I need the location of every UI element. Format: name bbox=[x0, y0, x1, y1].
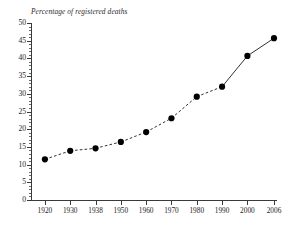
x-tick-label: 1970 bbox=[164, 207, 179, 214]
x-tick bbox=[146, 201, 147, 205]
data-point bbox=[219, 84, 225, 90]
data-series-line bbox=[31, 23, 277, 201]
line-segment bbox=[121, 132, 146, 142]
x-tick-label: 1990 bbox=[215, 207, 230, 214]
x-tick-label: 2006 bbox=[267, 207, 282, 214]
data-point-markers bbox=[42, 35, 277, 162]
x-tick bbox=[121, 201, 122, 205]
data-point bbox=[143, 129, 149, 135]
x-tick-label: 1960 bbox=[139, 207, 154, 214]
x-tick bbox=[70, 201, 71, 205]
line-segments bbox=[45, 38, 274, 159]
plot-area: 05101520253035404550 1920193019381950196… bbox=[31, 23, 277, 201]
chart-axis-title: Percentage of registered deaths bbox=[31, 7, 127, 16]
data-point bbox=[42, 156, 48, 162]
x-tick-label: 1938 bbox=[88, 207, 103, 214]
data-point bbox=[67, 148, 73, 154]
line-segment bbox=[171, 97, 196, 119]
data-point bbox=[118, 139, 124, 145]
y-tick-label: 5 bbox=[22, 179, 26, 187]
x-tick bbox=[197, 201, 198, 205]
line-segment bbox=[70, 148, 95, 150]
y-tick-label: 20 bbox=[18, 125, 26, 133]
chart-container: Percentage of registered deaths 05101520… bbox=[0, 0, 293, 231]
x-tick-label: 1920 bbox=[38, 207, 53, 214]
y-tick-label: 40 bbox=[18, 55, 26, 63]
y-tick-label: 35 bbox=[18, 72, 26, 80]
y-tick-label: 30 bbox=[18, 90, 26, 98]
y-tick-label: 15 bbox=[18, 143, 26, 151]
x-tick bbox=[222, 201, 223, 205]
x-tick bbox=[171, 201, 172, 205]
y-tick-label: 25 bbox=[18, 108, 26, 116]
data-point bbox=[194, 94, 200, 100]
y-tick-label: 45 bbox=[18, 37, 26, 45]
line-segment bbox=[146, 118, 171, 132]
x-tick bbox=[45, 201, 46, 205]
line-segment bbox=[247, 38, 274, 56]
x-tick bbox=[247, 201, 248, 205]
x-tick bbox=[274, 201, 275, 205]
line-segment bbox=[197, 87, 222, 97]
data-point bbox=[271, 35, 277, 41]
x-tick-label: 1930 bbox=[63, 207, 78, 214]
data-point bbox=[244, 53, 250, 59]
y-tick-label: 50 bbox=[18, 19, 26, 27]
y-tick-label: 0 bbox=[22, 196, 26, 204]
line-segment bbox=[96, 142, 121, 148]
x-tick-label: 2000 bbox=[240, 207, 255, 214]
line-segment bbox=[222, 56, 247, 87]
x-tick bbox=[96, 201, 97, 205]
line-segment bbox=[45, 151, 70, 159]
y-tick-label: 10 bbox=[18, 161, 26, 169]
data-point bbox=[168, 115, 174, 121]
x-tick-label: 1980 bbox=[189, 207, 204, 214]
x-tick-label: 1950 bbox=[114, 207, 129, 214]
data-point bbox=[92, 145, 98, 151]
